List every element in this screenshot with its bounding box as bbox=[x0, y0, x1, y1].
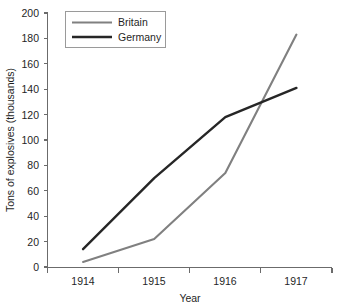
y-tick-label-80: 80 bbox=[27, 159, 39, 171]
legend-label-britain: Britain bbox=[118, 16, 148, 28]
x-tick-marks bbox=[48, 268, 333, 274]
series-line-germany bbox=[83, 88, 296, 249]
y-tick-label-100: 100 bbox=[21, 134, 39, 146]
y-tick-marks bbox=[44, 13, 48, 267]
y-tick-label-60: 60 bbox=[27, 185, 39, 197]
chart-legend: Britain Germany bbox=[66, 12, 166, 48]
y-tick-label-160: 160 bbox=[21, 58, 39, 70]
y-tick-label-200: 200 bbox=[21, 7, 39, 19]
x-axis-title: Year bbox=[179, 292, 201, 304]
legend-label-germany: Germany bbox=[118, 31, 162, 43]
line-chart: 200 180 160 140 120 100 80 60 40 20 0 19… bbox=[0, 0, 337, 306]
x-tick-label-1915: 1915 bbox=[142, 275, 166, 287]
y-tick-label-20: 20 bbox=[27, 236, 39, 248]
y-tick-label-140: 140 bbox=[21, 83, 39, 95]
y-tick-label-120: 120 bbox=[21, 109, 39, 121]
y-tick-label-0: 0 bbox=[33, 261, 39, 273]
x-tick-label-1917: 1917 bbox=[284, 275, 308, 287]
y-axis-title: Tons of explosives (thousands) bbox=[4, 68, 16, 212]
chart-canvas: 200 180 160 140 120 100 80 60 40 20 0 19… bbox=[0, 0, 337, 306]
x-tick-label-1916: 1916 bbox=[213, 275, 237, 287]
y-tick-label-40: 40 bbox=[27, 210, 39, 222]
x-tick-label-1914: 1914 bbox=[71, 275, 95, 287]
y-tick-label-180: 180 bbox=[21, 32, 39, 44]
